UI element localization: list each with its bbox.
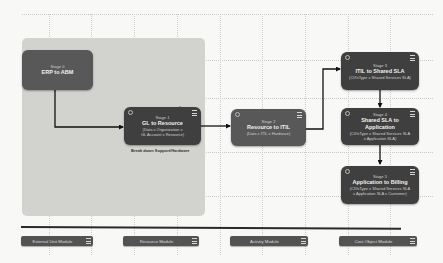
- module-label: Resource Module: [140, 239, 174, 244]
- group-caption: Break down Support/Hardware: [131, 148, 189, 153]
- stage-node-stage2[interactable]: Stage 2 Resource to ITIL (Data x ITIL x …: [231, 109, 306, 146]
- node-title: Application to Billing: [353, 179, 408, 186]
- stage-node-stage1[interactable]: Stage 1 GL to Resource (Data x Organizat…: [124, 107, 201, 145]
- menu-icon[interactable]: [410, 55, 415, 61]
- menu-icon[interactable]: [301, 238, 306, 244]
- stage-node-stage0[interactable]: Stage 0 ERP to ABM: [22, 50, 93, 90]
- menu-icon[interactable]: [192, 110, 197, 116]
- node-title: ITIL to Shared SLA: [355, 68, 404, 75]
- model-canvas[interactable]: Stage 0 ERP to ABM Stage 1 GL to Resourc…: [0, 0, 443, 263]
- module-divider: [21, 226, 401, 230]
- node-title: Shared SLA to Application: [349, 117, 411, 131]
- grid-line: [220, 14, 221, 255]
- menu-icon[interactable]: [86, 238, 91, 244]
- menu-icon[interactable]: [410, 169, 415, 175]
- module-button-cost-object[interactable]: Cost Object Module: [339, 236, 417, 246]
- node-title: ERP to ABM: [42, 69, 74, 76]
- menu-icon[interactable]: [410, 238, 415, 244]
- node-subtitle: (CI/IsType x Shared Services SLA): [349, 75, 411, 80]
- node-settings-icon[interactable]: [345, 169, 350, 174]
- node-settings-icon[interactable]: [128, 110, 133, 115]
- node-settings-icon[interactable]: [345, 111, 350, 116]
- node-title: Resource to ITIL: [247, 124, 290, 131]
- node-settings-icon[interactable]: [345, 55, 350, 60]
- module-label: Cost Object Module: [355, 239, 393, 244]
- node-subtitle: (Data x ITIL x Hardware): [247, 131, 291, 136]
- module-label: Activity Module: [250, 239, 279, 244]
- module-label: External Unit Module: [33, 239, 73, 244]
- node-subtitle: GL Account x Resource): [141, 132, 184, 137]
- menu-icon[interactable]: [192, 238, 197, 244]
- node-title: GL to Resource: [142, 120, 183, 127]
- module-button-external-unit[interactable]: External Unit Module: [21, 236, 93, 246]
- menu-icon[interactable]: [297, 112, 302, 118]
- module-button-activity[interactable]: Activity Module: [230, 236, 308, 246]
- grid-line: [22, 14, 433, 15]
- stage-node-stage5[interactable]: Stage 5 Application to Billing (CI/IsTyp…: [341, 166, 419, 204]
- menu-icon[interactable]: [410, 111, 415, 117]
- edge-stage2-stage3: [306, 69, 340, 129]
- node-subtitle: x Application SLA x Customer): [353, 191, 407, 196]
- node-subtitle: x Application SLA): [364, 136, 396, 141]
- module-button-resource[interactable]: Resource Module: [123, 236, 199, 246]
- stage-node-stage3[interactable]: Stage 3 ITIL to Shared SLA (CI/IsType x …: [341, 52, 419, 90]
- stage-node-stage4[interactable]: Stage 4 Shared SLA to Application (CI/Is…: [341, 108, 419, 145]
- node-settings-icon[interactable]: [235, 112, 240, 117]
